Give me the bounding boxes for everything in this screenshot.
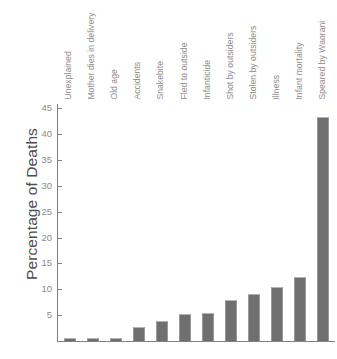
y-axis-tick-label: 20 <box>20 233 52 243</box>
category-label: Snakebite <box>157 61 166 100</box>
y-axis-tick-label: 30 <box>20 181 52 191</box>
bar <box>179 314 191 341</box>
y-axis-tick <box>57 134 62 135</box>
category-label: Accidents <box>134 62 143 100</box>
category-label: Unexplained <box>65 51 74 99</box>
category-label: Fled to outside <box>180 42 189 99</box>
y-axis-tick-label: 15 <box>20 258 52 268</box>
category-label: Old age <box>111 69 120 99</box>
y-axis-tick <box>57 289 62 290</box>
y-axis-tick-label: 10 <box>20 284 52 294</box>
y-axis-tick <box>57 263 62 264</box>
y-axis-tick-label: 5 <box>20 310 52 320</box>
bar <box>294 277 306 341</box>
y-axis-tick-label: 35 <box>20 155 52 165</box>
category-label: Shot by outsiders <box>226 32 235 99</box>
bar <box>133 327 145 341</box>
y-axis-tick-label: 45 <box>20 103 52 113</box>
bar <box>64 338 76 341</box>
y-axis-tick <box>57 315 62 316</box>
category-label: Infanticide <box>203 60 212 100</box>
y-axis-tick <box>57 186 62 187</box>
category-label: Infant mortality <box>295 42 304 99</box>
category-label: Speared by Waorani <box>318 21 327 100</box>
y-axis-line <box>57 104 58 342</box>
bar <box>248 294 260 341</box>
y-axis-tick-label: 40 <box>20 129 52 139</box>
x-axis-line <box>57 341 335 342</box>
y-axis-tick-label: 25 <box>20 207 52 217</box>
bar-chart: Percentage of Deaths 51015202530354045 U… <box>0 0 337 359</box>
bar <box>202 313 214 341</box>
bar <box>110 338 122 341</box>
bar <box>225 300 237 341</box>
y-axis-tick <box>57 212 62 213</box>
bar <box>317 117 329 341</box>
bar <box>271 287 283 341</box>
category-label: Stolen by outsiders <box>249 26 258 100</box>
y-axis-tick <box>57 160 62 161</box>
bar <box>156 321 168 341</box>
category-label: Mother dies in delivery <box>88 12 97 99</box>
category-label: Illness <box>272 75 281 100</box>
y-axis-tick <box>57 108 62 109</box>
bar <box>87 338 99 341</box>
y-axis-tick <box>57 238 62 239</box>
